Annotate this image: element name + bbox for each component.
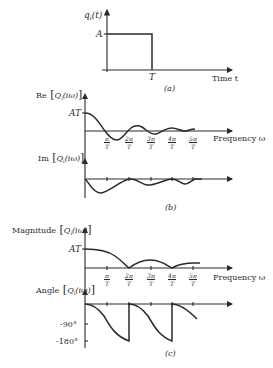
- tick-3pi-over-T: 3π T: [147, 135, 156, 150]
- svg-text:2π: 2π: [124, 135, 134, 142]
- svg-text:4π: 4π: [167, 135, 177, 142]
- caption-b: (b): [165, 203, 176, 212]
- mag-tick-labels: π T 2π T 3π T 4π T 5π T: [104, 272, 198, 287]
- mag-axis-label: Magnitude [Qi(iω)]: [12, 223, 92, 236]
- svg-text:T: T: [191, 143, 196, 150]
- tick-pi-over-T: π T: [104, 135, 110, 150]
- level-A-label: A: [95, 29, 103, 39]
- angle-minus90-label: -90°: [60, 320, 77, 329]
- angle-axis-label: Angle [Qi(iω)]: [35, 283, 95, 296]
- tick-2pi-over-T: 2π T: [124, 272, 134, 287]
- panel-b-imag-part: Im [Qi(iω)] (b): [38, 151, 232, 212]
- angle-minus180-label: -180°: [56, 337, 78, 346]
- T-label: T: [149, 72, 156, 82]
- svg-text:T: T: [170, 280, 175, 287]
- svg-text:2π: 2π: [124, 272, 134, 279]
- phase-angle-curve: [85, 304, 197, 341]
- re-frequency-label: Frequency ω: [213, 134, 266, 143]
- panel-a-y-label: qi(t): [84, 10, 103, 21]
- time-axis-label: Time t: [212, 74, 239, 83]
- fourier-transform-diagram: qi(t) A T Time t (a) Re [Qi(iω)] AT π T …: [0, 0, 273, 368]
- panel-c-angle: Angle [Qi(iω)] -90° -180° (c): [35, 283, 232, 358]
- re-tick-labels: π T 2π T 3π T 4π T 5π T: [104, 135, 198, 150]
- svg-text:T: T: [170, 143, 175, 150]
- svg-text:T: T: [105, 280, 110, 287]
- re-axis-arrow-icon: [82, 93, 88, 99]
- re-axis-label: Re [Qi(iω)]: [36, 88, 82, 101]
- mag-AT-label: AT: [68, 244, 82, 254]
- tick-5pi-over-T: 5π T: [189, 272, 198, 287]
- panel-a-rectangular-pulse: qi(t) A T Time t (a): [84, 10, 239, 93]
- svg-text:T: T: [105, 143, 110, 150]
- panel-b-real-part: Re [Qi(iω)] AT π T 2π T 3π T 4π T: [36, 88, 266, 198]
- svg-text:T: T: [149, 280, 154, 287]
- tick-pi-over-T: π T: [104, 272, 110, 287]
- re-AT-label: AT: [68, 108, 82, 118]
- tick-4pi-over-T: 4π T: [167, 135, 177, 150]
- magnitude-curve: [85, 249, 200, 268]
- tick-3pi-over-T: 3π T: [147, 272, 156, 287]
- svg-text:4π: 4π: [167, 272, 177, 279]
- im-axis-label: Im [Qi(iω)]: [38, 151, 84, 164]
- imag-part-curve: [85, 179, 202, 193]
- real-part-curve: [85, 113, 195, 140]
- svg-text:T: T: [191, 280, 196, 287]
- svg-text:5π: 5π: [189, 135, 198, 142]
- svg-text:3π: 3π: [147, 135, 156, 142]
- svg-text:5π: 5π: [189, 272, 198, 279]
- svg-text:3π: 3π: [147, 272, 156, 279]
- tick-5pi-over-T: 5π T: [189, 135, 198, 150]
- svg-text:π: π: [104, 272, 110, 279]
- mag-frequency-label: Frequency ω: [213, 273, 266, 282]
- svg-text:T: T: [127, 280, 132, 287]
- caption-c: (c): [165, 349, 176, 358]
- tick-4pi-over-T: 4π T: [167, 272, 177, 287]
- pulse-curve: [107, 34, 152, 70]
- caption-a: (a): [164, 84, 175, 93]
- tick-2pi-over-T: 2π T: [124, 135, 134, 150]
- svg-text:T: T: [149, 143, 154, 150]
- svg-text:T: T: [127, 143, 132, 150]
